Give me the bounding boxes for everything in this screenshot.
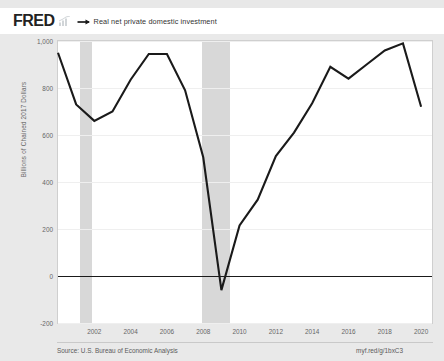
y-axis-tick-label: 600 [42, 132, 53, 139]
y-axis-tick-label: -200 [40, 320, 53, 327]
y-axis-tick-label: 1,000 [37, 38, 53, 45]
series-line-chart [58, 41, 432, 323]
x-axis-tick-label: 2012 [269, 328, 283, 335]
chart-footer: Source: U.S. Bureau of Economic Analysis… [57, 342, 433, 356]
x-axis-tick-label: 2020 [414, 328, 428, 335]
legend-series-label: Real net private domestic investment [94, 17, 217, 26]
x-axis-tick-label: 2016 [341, 328, 355, 335]
fred-chart-screenshot: FRED Real net private domestic investmen… [0, 0, 444, 361]
fred-bar-chart-icon [59, 12, 70, 30]
fred-logo: FRED [13, 13, 55, 29]
plot-area [57, 40, 433, 324]
x-axis-ticks: 2002200420062008201020122014201620182020 [57, 328, 433, 340]
chart-legend: Real net private domestic investment [77, 12, 217, 30]
y-axis-tick-label: 400 [42, 179, 53, 186]
x-axis-tick-label: 2014 [305, 328, 319, 335]
x-axis-tick-label: 2018 [378, 328, 392, 335]
chart-card: Billions of Chained 2017 Dollars 1,00080… [0, 34, 444, 361]
x-axis-tick-label: 2006 [160, 328, 174, 335]
y-axis-tick-label: 200 [42, 226, 53, 233]
permalink-note: myf.red/g/1bxC3 [356, 347, 433, 354]
x-axis-tick-label: 2002 [87, 328, 101, 335]
x-axis-tick-label: 2008 [196, 328, 210, 335]
y-axis-ticks: 1,0008006004002000-200 [12, 40, 53, 324]
line-marker-icon [77, 12, 90, 30]
chart-header: FRED Real net private domestic investmen… [0, 8, 444, 34]
x-axis-tick-label: 2004 [124, 328, 138, 335]
y-axis-tick-label: 800 [42, 85, 53, 92]
x-axis-tick-label: 2010 [232, 328, 246, 335]
source-note: Source: U.S. Bureau of Economic Analysis [57, 347, 178, 354]
gridline-horizontal [58, 323, 432, 324]
y-axis-tick-label: 0 [49, 273, 53, 280]
